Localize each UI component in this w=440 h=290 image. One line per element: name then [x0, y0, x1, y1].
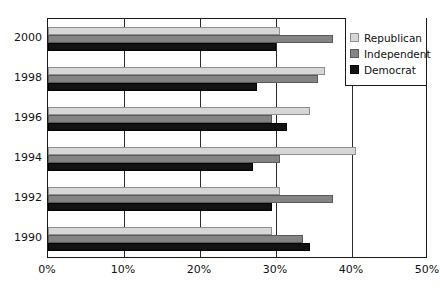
x-tick-label: 10%: [111, 263, 135, 276]
bar-independent-1994: [48, 155, 280, 163]
legend-label: Independent: [364, 48, 431, 60]
gridline-10%: [124, 19, 125, 257]
bar-republican-1992: [48, 187, 280, 195]
y-axis-label-1996: 1996: [6, 111, 42, 124]
legend-swatch-icon-republican: [350, 33, 359, 42]
bar-republican-1990: [48, 227, 272, 235]
legend-swatch-icon-independent: [350, 49, 359, 58]
bar-republican-1998: [48, 67, 325, 75]
bar-democrat-2000: [48, 43, 276, 51]
x-tick-label: 20%: [187, 263, 211, 276]
bar-democrat-1994: [48, 163, 253, 171]
legend-item-democrat[interactable]: Democrat: [350, 62, 440, 77]
bar-republican-1996: [48, 107, 310, 115]
bar-independent-2000: [48, 35, 333, 43]
y-axis-label-1998: 1998: [6, 71, 42, 84]
legend: RepublicanIndependentDemocrat: [350, 30, 440, 78]
x-tick-label: 0%: [38, 263, 55, 276]
gridline-20%: [200, 19, 201, 257]
x-tick-label: 30%: [263, 263, 287, 276]
bar-republican-1994: [48, 147, 356, 155]
bar-independent-1990: [48, 235, 303, 243]
bar-democrat-1992: [48, 203, 272, 211]
bar-democrat-1998: [48, 83, 257, 91]
y-axis-label-1990: 1990: [6, 231, 42, 244]
bar-republican-2000: [48, 27, 280, 35]
x-tick-label: 50%: [415, 263, 439, 276]
bar-democrat-1996: [48, 123, 287, 131]
legend-label: Republican: [364, 32, 422, 44]
y-axis-label-1994: 1994: [6, 151, 42, 164]
gridline-30%: [276, 19, 277, 257]
legend-item-independent[interactable]: Independent: [350, 46, 440, 61]
bar-democrat-1990: [48, 243, 310, 251]
bar-independent-1998: [48, 75, 318, 83]
legend-item-republican[interactable]: Republican: [350, 30, 440, 45]
x-tick-label: 40%: [339, 263, 363, 276]
bar-independent-1996: [48, 115, 272, 123]
y-axis-label-2000: 2000: [6, 31, 42, 44]
y-axis-label-1992: 1992: [6, 191, 42, 204]
legend-swatch-icon-democrat: [350, 65, 359, 74]
bar-independent-1992: [48, 195, 333, 203]
legend-label: Democrat: [364, 64, 416, 76]
